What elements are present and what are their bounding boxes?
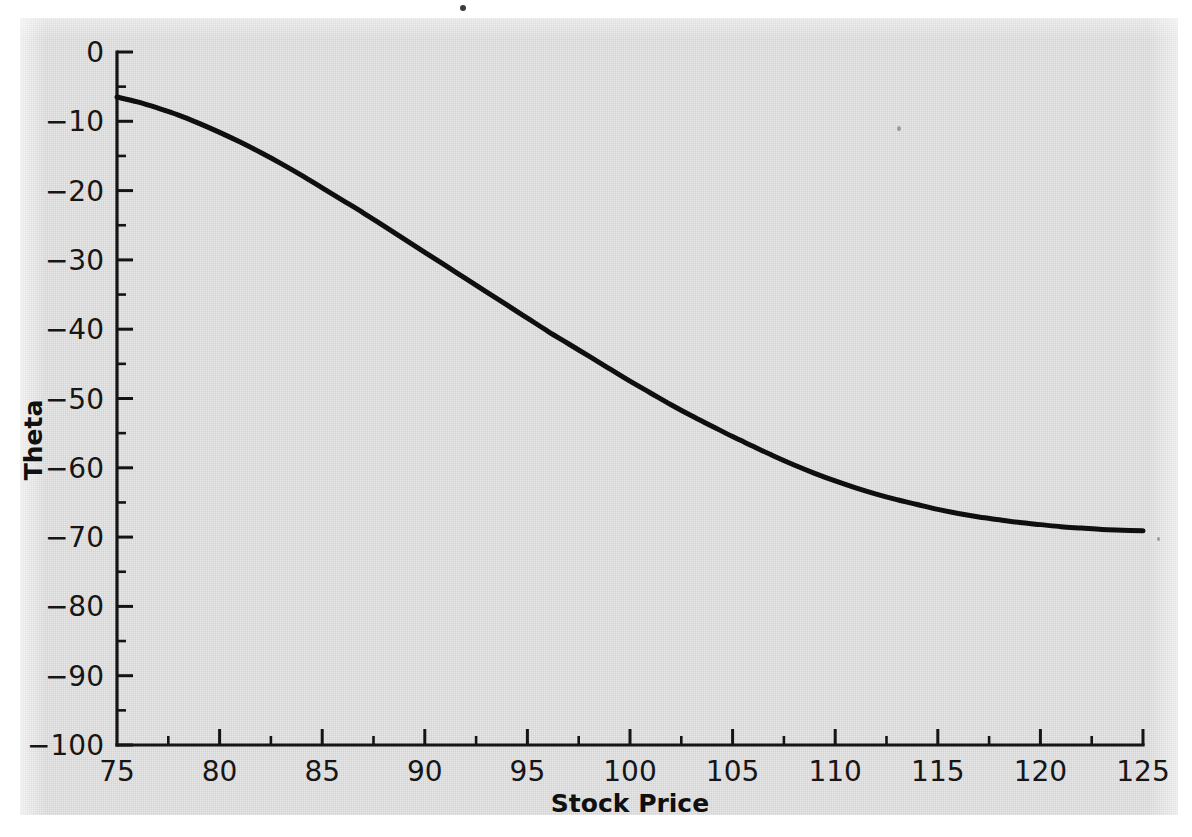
x-tick-label: 90	[407, 755, 443, 788]
x-tick-label: 85	[304, 755, 340, 788]
x-tick-label: 100	[603, 755, 656, 788]
theta-vs-stock-price-chart: Theta Stock Price 0−10−20−30−40−50−60−70…	[0, 0, 1192, 837]
y-tick-label: −60	[45, 452, 104, 485]
y-tick-label: −40	[45, 313, 104, 346]
y-tick-label: −30	[45, 244, 104, 277]
y-tick-label: −70	[45, 521, 104, 554]
x-tick-label: 105	[706, 755, 759, 788]
y-tick-label: −80	[45, 590, 104, 623]
y-tick-label: −90	[45, 660, 104, 693]
y-tick-label: −20	[45, 175, 104, 208]
x-tick-label: 75	[99, 755, 135, 788]
x-tick-label: 110	[808, 755, 861, 788]
y-tick-label: −100	[27, 729, 104, 762]
x-tick-label: 115	[911, 755, 964, 788]
x-tick-label: 125	[1116, 755, 1169, 788]
figure-canvas: Theta Stock Price 0−10−20−30−40−50−60−70…	[0, 0, 1192, 837]
x-tick-label: 95	[510, 755, 546, 788]
x-axis-title: Stock Price	[551, 789, 709, 818]
x-axis-tick-labels: 7580859095100105110115120125	[99, 755, 1170, 788]
y-tick-label: −50	[45, 383, 104, 416]
x-tick-label: 120	[1014, 755, 1067, 788]
y-tick-label: −10	[45, 105, 104, 138]
y-axis-tick-labels: 0−10−20−30−40−50−60−70−80−90−100	[27, 36, 104, 762]
x-tick-label: 80	[202, 755, 238, 788]
theta-curve	[117, 97, 1143, 531]
y-axis-title: Theta	[19, 400, 48, 481]
y-tick-label: 0	[86, 36, 104, 69]
